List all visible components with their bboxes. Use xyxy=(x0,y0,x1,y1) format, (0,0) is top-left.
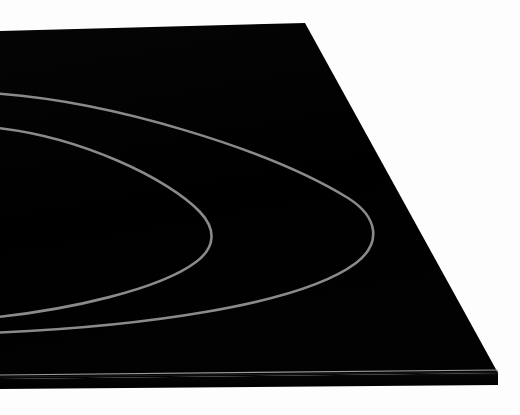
slab-scene xyxy=(0,0,520,415)
render-canvas: 3D perspective render of a black rectang… xyxy=(0,0,520,415)
